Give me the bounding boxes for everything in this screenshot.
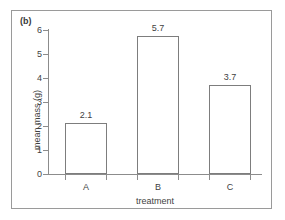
y-tick-2 <box>43 126 48 127</box>
bar-value-b: 5.7 <box>138 23 178 33</box>
x-tick-a-left <box>65 175 66 180</box>
y-tick-1 <box>43 150 48 151</box>
y-tick-label-4: 4 <box>22 74 42 83</box>
bar-chart-plot-area: 0 1 2 3 4 5 6 2.1 5.7 3.7 A B C mean <box>0 0 285 220</box>
y-tick-0 <box>43 174 48 175</box>
x-tick-c-right <box>250 175 251 180</box>
y-tick-label-6: 6 <box>22 26 42 35</box>
y-tick-label-5: 5 <box>22 50 42 59</box>
bar-value-c: 3.7 <box>210 72 250 82</box>
y-tick-3 <box>43 102 48 103</box>
x-axis-title: treatment <box>48 196 262 206</box>
bar-value-a: 2.1 <box>66 110 106 120</box>
figure-panel: (b) 0 1 2 3 4 5 6 2.1 5.7 3.7 <box>0 0 285 220</box>
x-axis-line <box>48 174 262 175</box>
y-tick-5 <box>43 54 48 55</box>
y-tick-label-0: 0 <box>22 170 42 179</box>
x-tick-label-c: C <box>215 182 245 192</box>
bar-a <box>65 123 107 174</box>
bar-c <box>209 85 251 174</box>
x-tick-label-a: A <box>71 182 101 192</box>
y-tick-6 <box>43 30 48 31</box>
x-tick-b-right <box>178 175 179 180</box>
y-axis-title: mean mass (g) <box>32 90 42 150</box>
x-tick-b-left <box>137 175 138 180</box>
x-tick-a-right <box>106 175 107 180</box>
y-axis-line <box>48 29 49 175</box>
x-tick-c-left <box>209 175 210 180</box>
y-tick-4 <box>43 78 48 79</box>
x-tick-label-b: B <box>143 182 173 192</box>
bar-b <box>137 36 179 174</box>
